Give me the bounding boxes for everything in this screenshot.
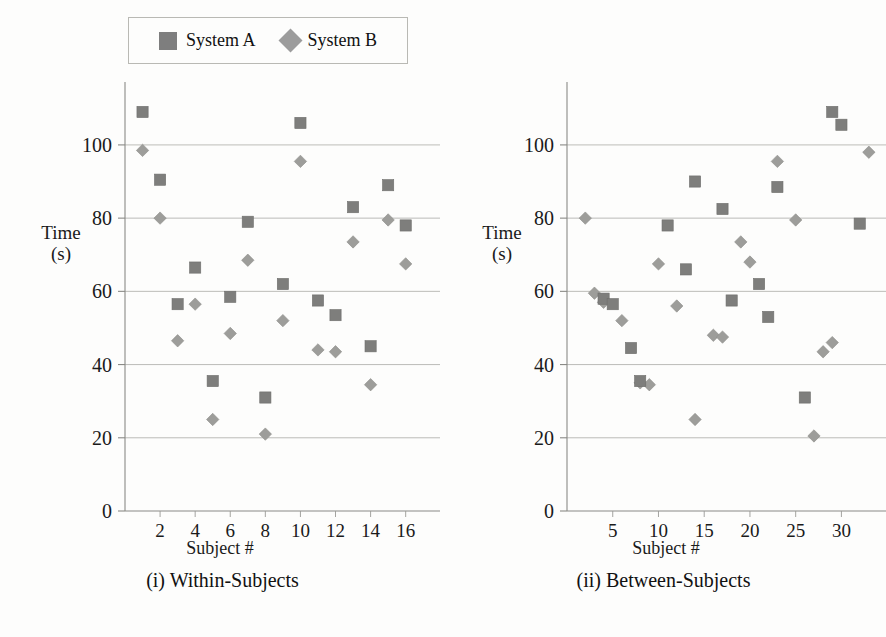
x-axis-label-right: Subject # <box>466 538 866 559</box>
svg-text:40: 40 <box>92 354 112 376</box>
y-axis-label-line1: Time <box>41 222 80 243</box>
legend: System A System B <box>128 17 408 64</box>
svg-text:20: 20 <box>92 427 112 449</box>
caption-panel-i: (i) Within-Subjects <box>0 569 445 592</box>
y-axis-label-line2: (s) <box>459 243 545 264</box>
svg-text:20: 20 <box>534 427 554 449</box>
legend-entry-system-a: System A <box>159 30 256 51</box>
svg-text:100: 100 <box>82 134 112 156</box>
legend-entry-system-b: System B <box>282 30 378 51</box>
panel-between-subjects: 02040608010051015202530 Time (s) Subject… <box>441 0 886 600</box>
x-axis-label-left: Subject # <box>20 538 420 559</box>
panel-within-subjects: 020406080100246810121416 Time (s) Subjec… <box>0 0 445 600</box>
y-axis-label-line2: (s) <box>18 243 104 264</box>
diamond-marker-icon <box>278 28 302 52</box>
svg-text:40: 40 <box>534 354 554 376</box>
legend-label-system-a: System A <box>186 30 256 51</box>
svg-text:0: 0 <box>544 500 554 522</box>
svg-text:60: 60 <box>92 280 112 302</box>
svg-text:60: 60 <box>534 280 554 302</box>
svg-text:100: 100 <box>524 134 554 156</box>
square-marker-icon <box>159 32 177 50</box>
plot-area-between-subjects: 02040608010051015202530 <box>441 0 886 560</box>
caption-panel-ii: (ii) Between-Subjects <box>441 569 886 592</box>
svg-text:0: 0 <box>102 500 112 522</box>
y-axis-label-right: Time (s) <box>459 222 545 264</box>
y-axis-label-line1: Time <box>482 222 521 243</box>
legend-label-system-b: System B <box>308 30 378 51</box>
y-axis-label-left: Time (s) <box>18 222 104 264</box>
scatter-figure: 020406080100246810121416 Time (s) Subjec… <box>0 0 886 637</box>
plot-area-within-subjects: 020406080100246810121416 <box>0 0 445 560</box>
